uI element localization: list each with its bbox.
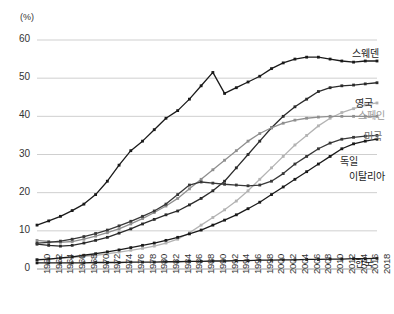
x-tick-label-2002: 2002: [287, 254, 298, 274]
x-tick-label-1972: 1972: [111, 254, 122, 274]
x-tick-label-1998: 1998: [264, 254, 275, 274]
x-tick-label-2000: 2000: [275, 254, 286, 274]
series-label-미국: 미국: [364, 128, 382, 143]
series-label-스페인: 스페인: [358, 107, 385, 122]
series-label-스웨덴: 스웨덴: [352, 45, 379, 60]
y-tick-label-20: 20: [8, 186, 30, 197]
x-tick-label-1960: 1960: [41, 254, 52, 274]
x-tick-label-2010: 2010: [334, 254, 345, 274]
series-label-이탈리아: 이탈리아: [349, 168, 385, 183]
y-tick-label-10: 10: [8, 224, 30, 235]
gridlines: [37, 40, 377, 269]
series-0: [36, 56, 379, 227]
x-tick-label-2018: 2018: [381, 254, 392, 274]
x-tick-label-1990: 1990: [217, 254, 228, 274]
series-label-독일: 독일: [340, 153, 358, 168]
y-tick-label-60: 60: [8, 33, 30, 44]
x-tick-label-1970: 1970: [100, 254, 111, 274]
series-3: [36, 115, 379, 244]
series-2: [36, 102, 379, 261]
x-tick-label-2006: 2006: [311, 254, 322, 274]
chart-page: (%) 0102030405060 1960196219641966196819…: [0, 0, 394, 314]
x-tick-label-1992: 1992: [229, 254, 240, 274]
x-tick-label-1994: 1994: [240, 254, 251, 274]
x-tick-label-1982: 1982: [170, 254, 181, 274]
x-tick-label-1986: 1986: [193, 254, 204, 274]
x-tick-label-2004: 2004: [299, 254, 310, 274]
x-tick-label-1988: 1988: [205, 254, 216, 274]
x-tick-label-1964: 1964: [64, 254, 75, 274]
y-tick-label-0: 0: [8, 262, 30, 273]
series-label-한국: 한국: [355, 255, 373, 270]
y-tick-label-30: 30: [8, 148, 30, 159]
x-tick-label-1984: 1984: [182, 254, 193, 274]
x-tick-label-1966: 1966: [76, 254, 87, 274]
x-tick-label-1968: 1968: [88, 254, 99, 274]
x-tick-label-1962: 1962: [53, 254, 64, 274]
x-tick-label-2008: 2008: [322, 254, 333, 274]
x-tick-label-1976: 1976: [135, 254, 146, 274]
y-tick-label-50: 50: [8, 71, 30, 82]
y-tick-label-40: 40: [8, 109, 30, 120]
x-tick-label-1978: 1978: [147, 254, 158, 274]
x-tick-label-1974: 1974: [123, 254, 134, 274]
series-1: [36, 81, 379, 247]
x-tick-label-1996: 1996: [252, 254, 263, 274]
x-tick-label-1980: 1980: [158, 254, 169, 274]
